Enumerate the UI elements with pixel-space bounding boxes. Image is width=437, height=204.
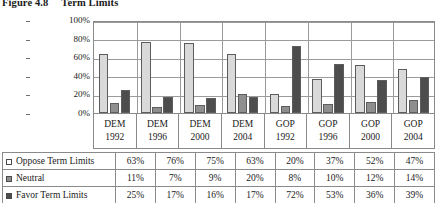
bar-oppose: [184, 43, 194, 113]
category-party: DEM: [147, 118, 168, 131]
bar-neutral: [195, 105, 205, 113]
category-label-gop-2000: GOP2000: [350, 114, 393, 148]
category-label-gop-2004: GOP2004: [392, 114, 434, 148]
category-year: 1996: [148, 131, 167, 144]
bar-oppose: [141, 42, 151, 113]
category-party: GOP: [276, 118, 295, 131]
bar-favor: [377, 80, 387, 113]
table-cell: 12%: [355, 170, 395, 187]
bar-neutral: [409, 100, 419, 113]
category-year: 1992: [276, 131, 295, 144]
y-axis-tick-mark: [26, 58, 30, 59]
category-axis-row: DEM1992DEM1996DEM2000DEM2004GOP1992GOP19…: [93, 114, 435, 149]
y-axis-tick-mark: [26, 21, 30, 22]
bars-layer: [94, 22, 434, 113]
legend-row-oppose: Oppose Term Limits: [3, 153, 116, 170]
bar-group: [94, 22, 137, 113]
bar-oppose: [355, 65, 365, 113]
y-axis-tick-label: 80%: [30, 35, 90, 44]
y-axis-tick-mark: [26, 114, 30, 115]
bar-oppose: [99, 54, 109, 113]
bar-oppose: [312, 79, 322, 113]
figure-number: Figure 4.8: [2, 0, 48, 8]
category-party: DEM: [104, 118, 125, 131]
table-row: Neutral11%7%9%20%8%10%12%14%: [3, 170, 435, 187]
category-year: 2004: [404, 131, 423, 144]
legend-row-favor: Favor Term Limits: [3, 187, 116, 204]
legend-row-neutral: Neutral: [3, 170, 116, 187]
table-cell: 47%: [395, 153, 435, 170]
table-cell: 20%: [275, 153, 315, 170]
category-label-gop-1992: GOP1992: [265, 114, 308, 148]
table-cell: 11%: [116, 170, 156, 187]
category-separator: [265, 22, 266, 113]
data-table: Oppose Term Limits63%76%75%63%20%37%52%4…: [2, 152, 435, 203]
y-axis-tick-label: 40%: [30, 72, 90, 81]
table-row: Oppose Term Limits63%76%75%63%20%37%52%4…: [3, 153, 435, 170]
bar-favor: [121, 90, 131, 113]
legend-label: Oppose Term Limits: [16, 156, 94, 166]
category-party: DEM: [232, 118, 253, 131]
category-label-gop-1996: GOP1996: [307, 114, 350, 148]
category-party: DEM: [190, 118, 211, 131]
category-year: 2000: [191, 131, 210, 144]
chart-plot-area: [93, 21, 435, 114]
y-axis-tick-mark: [26, 95, 30, 96]
table-cell: 7%: [155, 170, 195, 187]
bar-group: [308, 22, 351, 113]
bar-neutral: [323, 104, 333, 113]
y-axis-tick-mark: [26, 40, 30, 41]
category-year: 2004: [233, 131, 252, 144]
legend-label: Neutral: [16, 173, 45, 183]
table-cell: 25%: [116, 187, 156, 204]
table-cell: 17%: [155, 187, 195, 204]
bar-favor: [292, 46, 302, 113]
table-cell: 20%: [235, 170, 275, 187]
table-cell: 63%: [116, 153, 156, 170]
bar-oppose: [227, 54, 237, 113]
y-axis-tick-label: 0%: [30, 109, 90, 118]
table-cell: 76%: [155, 153, 195, 170]
bar-neutral: [366, 102, 376, 113]
category-separator: [180, 22, 181, 113]
legend-swatch-favor-icon: [6, 193, 12, 199]
table-cell: 63%: [235, 153, 275, 170]
legend-label: Favor Term Limits: [16, 190, 87, 200]
category-year: 1992: [105, 131, 124, 144]
table-cell: 39%: [395, 187, 435, 204]
bar-group: [393, 22, 436, 113]
category-party: GOP: [404, 118, 423, 131]
figure-title-text: Term Limits: [61, 0, 118, 8]
table-cell: 52%: [355, 153, 395, 170]
y-axis-tick-mark: [26, 77, 30, 78]
bar-favor: [163, 97, 173, 113]
bar-favor: [420, 77, 430, 113]
bar-group: [222, 22, 265, 113]
table-cell: 16%: [195, 187, 235, 204]
category-separator: [308, 22, 309, 113]
bar-neutral: [238, 94, 248, 113]
y-axis-tick-label: 100%: [30, 16, 90, 25]
bar-neutral: [110, 103, 120, 113]
bar-oppose: [398, 69, 408, 113]
category-separator: [393, 22, 394, 113]
bar-group: [137, 22, 180, 113]
legend-swatch-oppose-icon: [6, 159, 12, 165]
category-separator: [222, 22, 223, 113]
category-label-dem-1996: DEM1996: [137, 114, 180, 148]
figure-title: Figure 4.8Term Limits: [2, 0, 118, 8]
bar-group: [180, 22, 223, 113]
legend-swatch-neutral-icon: [6, 176, 12, 182]
table-cell: 9%: [195, 170, 235, 187]
bar-favor: [206, 98, 216, 113]
category-party: GOP: [318, 118, 337, 131]
bar-favor: [249, 97, 259, 113]
table-cell: 37%: [315, 153, 355, 170]
category-label-dem-2004: DEM2004: [222, 114, 265, 148]
table-cell: 17%: [235, 187, 275, 204]
category-year: 2000: [361, 131, 380, 144]
table-cell: 36%: [355, 187, 395, 204]
category-label-dem-1992: DEM1992: [94, 114, 137, 148]
bar-neutral: [152, 107, 162, 114]
y-axis-tick-label: 60%: [30, 53, 90, 62]
